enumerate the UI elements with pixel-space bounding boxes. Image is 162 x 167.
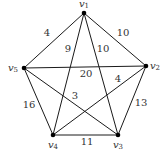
edge-weight-v1-v4: 9 xyxy=(65,43,71,54)
weighted-complete-graph: 4910102043161311 v1v2v3v4v5 xyxy=(0,0,162,167)
edge-v1-v2 xyxy=(84,13,146,66)
vertex-v5 xyxy=(22,66,27,71)
edge-weight-v5-v2: 20 xyxy=(80,68,93,79)
edge-weight-v1-v2: 10 xyxy=(117,27,130,38)
vertex-label-v2: v2 xyxy=(150,60,160,72)
edge-weight-v2-v3: 13 xyxy=(135,97,148,108)
vertex-v4 xyxy=(51,133,56,138)
vertex-label-v3: v3 xyxy=(113,139,123,151)
vertex-label-v1: v1 xyxy=(79,0,89,10)
edge-weight-v1-v3: 10 xyxy=(97,43,110,54)
vertex-v1 xyxy=(82,11,87,16)
vertex-label-v5: v5 xyxy=(8,62,18,74)
vertex-v2 xyxy=(144,64,149,69)
edge-weight-v2-v4: 4 xyxy=(115,73,121,84)
edge-weight-v4-v3: 11 xyxy=(81,136,94,147)
edge-weight-v1-v5: 4 xyxy=(44,27,50,38)
edge-weight-v5-v4: 16 xyxy=(23,99,36,110)
vertex-v3 xyxy=(116,133,121,138)
edge-weight-labels: 4910102043161311 xyxy=(23,27,148,147)
edge-v1-v5 xyxy=(24,13,84,68)
vertex-label-v4: v4 xyxy=(48,139,59,151)
edge-weight-v5-v3: 3 xyxy=(72,90,78,101)
